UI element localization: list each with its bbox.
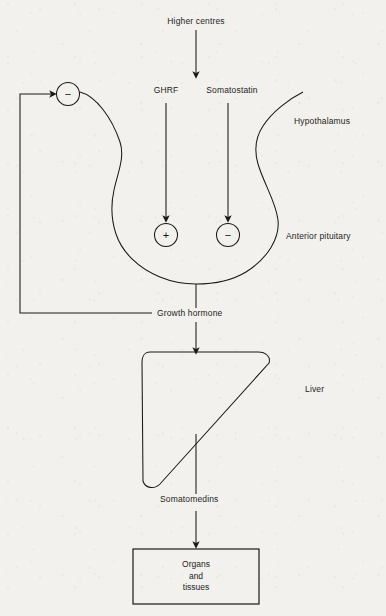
hypothalamus-pituitary-outline-right	[196, 92, 303, 284]
label-hypothalamus: Hypothalamus	[294, 116, 350, 126]
liver-outline	[142, 352, 269, 488]
organs-line-3: tissues	[182, 582, 210, 594]
hypothalamus-pituitary-outline-left	[80, 92, 196, 284]
label-liver: Liver	[305, 384, 324, 394]
minus-sign-somatostatin: −	[225, 230, 231, 241]
plus-sign-ghrf: +	[163, 230, 169, 241]
diagram-page: Higher centres GHRF Somatostatin Hypotha…	[0, 0, 386, 616]
label-ghrf: GHRF	[154, 85, 179, 95]
label-growth-hormone: Growth hormone	[155, 308, 224, 318]
label-higher-centres: Higher centres	[167, 16, 224, 26]
organs-and-tissues-label: Organs and tissues	[182, 559, 210, 594]
label-somatostatin: Somatostatin	[206, 85, 257, 95]
label-somatomedins: Somatomedins	[158, 494, 221, 504]
minus-sign-feedback: −	[65, 89, 71, 100]
organs-line-1: Organs	[182, 559, 210, 571]
organs-line-2: and	[182, 571, 210, 583]
negative-feedback-loop	[20, 94, 152, 313]
label-anterior-pituitary: Anterior pituitary	[286, 231, 351, 241]
